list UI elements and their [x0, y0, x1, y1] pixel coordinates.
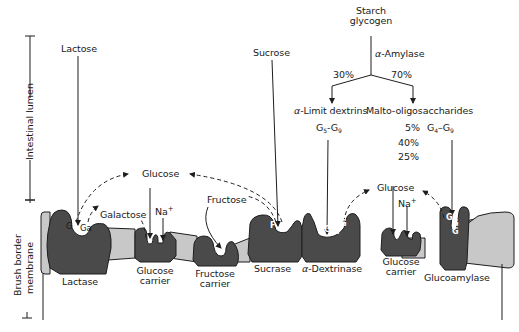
- glucose-carrier-2-label: Glucose carrier: [376, 257, 426, 278]
- starch-label: Starch glycogen: [346, 6, 396, 27]
- pct-30-label: 30%: [333, 70, 354, 80]
- charge: +: [411, 197, 417, 205]
- sucrase-label: Sucrase: [254, 264, 291, 274]
- glucoamylase-bound-g3: G: [452, 228, 459, 236]
- label-line2: carrier: [190, 279, 240, 289]
- charge: +: [168, 205, 174, 213]
- glucose-carrier-1-protein: [135, 228, 176, 262]
- g4-g9-label: G4–G9: [427, 123, 454, 135]
- pct-70-label: 70%: [391, 70, 412, 80]
- sucrose-label: Sucrose: [253, 48, 290, 58]
- glucose-carrier-2-protein: [381, 228, 421, 256]
- fructose-carrier-label: Fructose carrier: [190, 269, 240, 290]
- dextrinase-bound-g4: G: [340, 220, 347, 228]
- amylase-label: α-Amylase: [375, 49, 424, 59]
- glucose-carrier-1-label: Glucose carrier: [130, 266, 180, 287]
- lactase-bound-g: G: [66, 222, 73, 231]
- label-line2: carrier: [376, 267, 426, 277]
- sub-9: 9: [338, 127, 342, 134]
- lactose-label: Lactose: [61, 44, 97, 54]
- glucose-left-label: Glucose: [142, 169, 179, 179]
- pct-5-label: 5%: [405, 123, 420, 133]
- fructose-carrier-protein: [193, 236, 238, 266]
- malto-oligosaccharides-label: Malto-oligosaccharides: [366, 106, 473, 116]
- g-text: G: [331, 122, 338, 133]
- intestinal-lumen-label: Intestinal lumen: [25, 83, 35, 160]
- pct-25-label: 25%: [398, 152, 419, 162]
- sub-9: 9: [450, 127, 454, 134]
- carbohydrate-digestion-diagram: Intestinal lumen Brush border membrane S…: [0, 0, 519, 332]
- dextrinase-text: -Dextrinase: [308, 263, 362, 274]
- amylase-text: -Amylase: [381, 48, 424, 59]
- limit-dextrins-label: α-Limit dextrins: [294, 106, 367, 116]
- g5-g9-label: G5-G9: [316, 123, 342, 135]
- pct-40-label: 40%: [398, 138, 419, 148]
- glucose-right-label: Glucose: [377, 183, 414, 193]
- sucrase-bound-f: F: [270, 222, 275, 230]
- na-text: Na: [155, 206, 168, 217]
- glycogen-text: glycogen: [346, 16, 396, 26]
- lactase-label: Lactase: [55, 277, 105, 287]
- sodium-left-label: Na+: [155, 206, 174, 217]
- dextrinase-bound-g1: G: [317, 218, 324, 226]
- fructose-label: Fructose: [207, 195, 246, 205]
- glucoamylase-protein: [440, 207, 469, 270]
- limit-dextrins-text: -Limit dextrins: [300, 105, 367, 116]
- g-text: G: [443, 122, 450, 133]
- lactase-bound-ga: Ga: [80, 224, 92, 233]
- galactose-label: Galactose: [100, 210, 146, 220]
- sucrase-bound-g: G: [282, 224, 289, 232]
- brush-border-label-line2: membrane: [25, 242, 35, 294]
- dextrinase-bound-g3: G: [333, 228, 340, 236]
- glucoamylase-label: Glucoamylase: [424, 273, 490, 283]
- brush-border-label-line1: Brush border: [13, 234, 23, 296]
- dextrinase-protein: [302, 214, 360, 263]
- na-text: Na: [398, 198, 411, 209]
- label-line2: carrier: [130, 276, 180, 286]
- dextrinase-label: α-Dextrinase: [302, 264, 362, 274]
- dextrinase-bound-g2: G: [324, 226, 331, 234]
- sodium-right-label: Na+: [398, 198, 417, 209]
